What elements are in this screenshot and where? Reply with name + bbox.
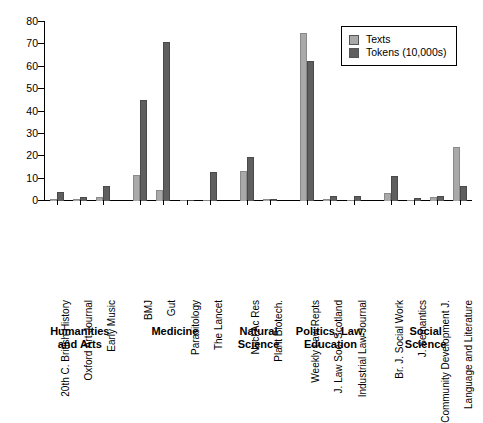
legend-swatch-icon xyxy=(349,48,359,58)
section-title-line: and Arts xyxy=(20,338,140,351)
y-tick-label: 70 xyxy=(0,38,38,48)
bar-group xyxy=(198,21,221,201)
x-tick-mark xyxy=(210,200,211,205)
bar-group xyxy=(68,21,91,201)
legend-item: Texts xyxy=(349,34,447,45)
y-tick-label: 20 xyxy=(0,150,38,160)
x-tick-mark xyxy=(330,200,331,205)
bar-tokens xyxy=(210,172,217,201)
chart-section xyxy=(45,21,115,201)
x-tick-mark xyxy=(307,200,308,205)
y-tick-label: 60 xyxy=(0,61,38,71)
x-tick-mark xyxy=(354,200,355,205)
bar-texts xyxy=(133,175,140,201)
x-tick-mark xyxy=(187,200,188,205)
y-tick-label: 80 xyxy=(0,16,38,26)
bar-group xyxy=(235,21,258,201)
section-title: SocialScience xyxy=(366,325,483,351)
x-axis-label: BMJ xyxy=(144,300,154,320)
bar-texts xyxy=(300,33,307,201)
bar-group xyxy=(129,21,152,201)
legend-label: Texts xyxy=(366,34,391,45)
bar-tokens xyxy=(460,186,467,201)
x-tick-mark xyxy=(140,200,141,205)
y-tick-label: 50 xyxy=(0,83,38,93)
bar-texts xyxy=(240,171,247,201)
y-tick-mark xyxy=(38,155,44,156)
chart-section xyxy=(235,21,281,201)
bar-group xyxy=(152,21,175,201)
section-headings: Humanitiesand ArtsMedicineNaturalScience… xyxy=(22,325,472,365)
bar-group xyxy=(91,21,114,201)
bar-texts xyxy=(453,147,460,201)
x-axis-label: Gut xyxy=(167,300,177,316)
x-tick-mark xyxy=(247,200,248,205)
x-tick-mark xyxy=(270,200,271,205)
legend-label: Tokens (10,000s) xyxy=(366,47,447,58)
bar-tokens xyxy=(103,186,110,201)
y-tick-mark xyxy=(38,178,44,179)
x-tick-mark xyxy=(103,200,104,205)
y-tick-mark xyxy=(38,21,44,22)
bar-tokens xyxy=(391,176,398,201)
bar-group xyxy=(175,21,198,201)
x-axis-labels: 20th C. British HistoryOxford Art Journa… xyxy=(45,206,472,302)
bar-tokens xyxy=(247,157,254,201)
y-tick-mark xyxy=(38,133,44,134)
chart-legend: TextsTokens (10,000s) xyxy=(341,26,457,66)
bar-group xyxy=(45,21,68,201)
bar-group xyxy=(259,21,282,201)
x-tick-mark xyxy=(391,200,392,205)
bar-group xyxy=(296,21,319,201)
y-tick-mark xyxy=(38,43,44,44)
y-tick-label: 30 xyxy=(0,128,38,138)
x-tick-mark xyxy=(163,200,164,205)
y-tick-label: 40 xyxy=(0,106,38,116)
legend-swatch-icon xyxy=(349,35,359,45)
y-tick-mark xyxy=(38,88,44,89)
y-tick-label: 0 xyxy=(0,195,38,205)
y-tick-mark xyxy=(38,66,44,67)
x-tick-mark xyxy=(460,200,461,205)
section-title-line: Science xyxy=(366,338,483,351)
bar-tokens xyxy=(163,42,170,201)
chart-section xyxy=(129,21,222,201)
y-tick-mark xyxy=(38,111,44,112)
x-tick-mark xyxy=(80,200,81,205)
bar-tokens xyxy=(307,61,314,201)
x-tick-mark xyxy=(437,200,438,205)
legend-item: Tokens (10,000s) xyxy=(349,47,447,58)
y-tick-mark xyxy=(38,200,44,201)
bar-group xyxy=(319,21,342,201)
x-axis-ticks xyxy=(45,200,472,205)
section-title-line: Social xyxy=(366,325,483,338)
x-tick-mark xyxy=(414,200,415,205)
x-tick-mark xyxy=(57,200,58,205)
bar-tokens xyxy=(140,100,147,201)
y-tick-label: 10 xyxy=(0,173,38,183)
